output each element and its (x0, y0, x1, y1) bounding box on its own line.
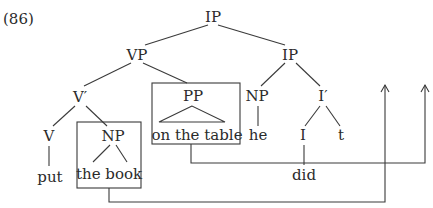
node-v: V (43, 127, 56, 145)
leaf-on-the-table: on the table (151, 126, 242, 144)
node-vp: VP (126, 46, 148, 64)
node-ip-root: IP (205, 8, 221, 26)
syntax-tree-diagram: (86) IP VP IP V′ PP NP I′ V NP I t put t… (0, 0, 433, 208)
leaf-put: put (37, 168, 62, 186)
node-i-bar: I′ (318, 87, 328, 105)
node-np-object: NP (101, 127, 124, 145)
node-ip-inner: IP (282, 46, 298, 64)
node-pp: PP (183, 87, 203, 105)
leaf-he: he (249, 126, 268, 144)
example-number: (86) (3, 10, 34, 28)
node-v-bar: V′ (72, 88, 88, 106)
leaf-did: did (292, 166, 316, 184)
movement-path-pp (191, 85, 429, 163)
node-trace: t (338, 126, 344, 144)
node-np-subject: NP (245, 87, 268, 105)
node-i: I (300, 126, 306, 144)
leaf-the-book: the book (76, 165, 143, 183)
